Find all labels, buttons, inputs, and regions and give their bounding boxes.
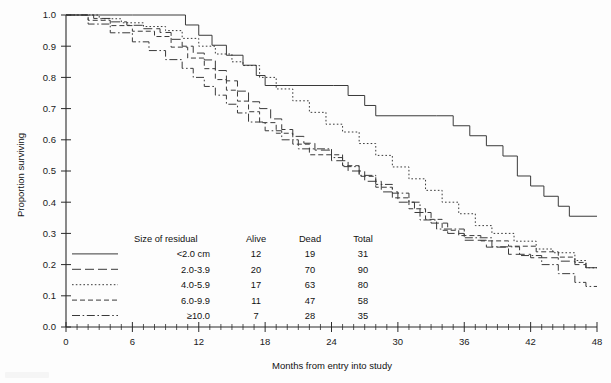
legend-alive-4: 7 bbox=[253, 311, 258, 321]
x-tick-label: 36 bbox=[459, 336, 470, 347]
legend-alive-3: 11 bbox=[251, 296, 261, 306]
legend-header-dead: Dead bbox=[299, 234, 321, 244]
y-tick-label: 0.5 bbox=[43, 165, 56, 176]
x-tick-label: 6 bbox=[130, 336, 135, 347]
y-tick-label: 0.2 bbox=[43, 259, 56, 270]
x-tick-label: 30 bbox=[393, 336, 404, 347]
x-tick-label: 18 bbox=[260, 336, 271, 347]
legend-dead-0: 19 bbox=[305, 249, 315, 259]
x-axis-title: Months from entry into study bbox=[272, 360, 392, 371]
y-tick-label: 0.7 bbox=[43, 103, 56, 114]
legend-dead-1: 70 bbox=[305, 265, 315, 275]
legend-row-label-0: <2.0 cm bbox=[177, 249, 211, 259]
x-tick-label: 0 bbox=[63, 336, 68, 347]
legend-alive-2: 17 bbox=[251, 280, 261, 290]
survival-curve-figure: 0.00.10.20.30.40.50.60.70.80.91.0 061218… bbox=[0, 0, 611, 383]
legend-header-total: Total bbox=[353, 234, 373, 244]
x-tick-label: 12 bbox=[193, 336, 204, 347]
y-tick-label: 0.3 bbox=[43, 228, 56, 239]
x-tick-label: 42 bbox=[525, 336, 536, 347]
y-tick-label: 0.4 bbox=[43, 197, 56, 208]
legend-dead-3: 47 bbox=[305, 296, 315, 306]
legend-row-label-2: 4.0-5.9 bbox=[181, 280, 210, 290]
legend-dead-2: 63 bbox=[305, 280, 315, 290]
y-tick-label: 1.0 bbox=[43, 9, 56, 20]
legend-total-0: 31 bbox=[358, 249, 368, 259]
legend-dead-4: 28 bbox=[305, 311, 315, 321]
x-tick-label: 48 bbox=[592, 336, 603, 347]
legend-header-size: Size of residual bbox=[134, 234, 198, 244]
legend-row-label-1: 2.0-3.9 bbox=[181, 265, 210, 275]
legend-row-label-3: 6.0-9.9 bbox=[181, 296, 210, 306]
y-axis-title: Proportion surviving bbox=[15, 133, 26, 217]
kaplan-meier-chart: 0.00.10.20.30.40.50.60.70.80.91.0 061218… bbox=[0, 0, 611, 383]
legend-total-4: 35 bbox=[358, 311, 368, 321]
y-tick-label: 0.8 bbox=[43, 72, 56, 83]
y-tick-label: 0.0 bbox=[43, 321, 56, 332]
legend-total-1: 90 bbox=[358, 265, 368, 275]
legend-total-2: 80 bbox=[358, 280, 368, 290]
x-tick-label: 24 bbox=[326, 336, 337, 347]
y-tick-label: 0.1 bbox=[43, 290, 56, 301]
legend-alive-1: 20 bbox=[251, 265, 261, 275]
legend-row-label-4: ≥10.0 bbox=[187, 311, 210, 321]
y-tick-label: 0.9 bbox=[43, 41, 56, 52]
legend-alive-0: 12 bbox=[251, 249, 261, 259]
y-tick-label: 0.6 bbox=[43, 134, 56, 145]
page-artifact bbox=[5, 372, 49, 378]
legend-total-3: 58 bbox=[358, 296, 368, 306]
legend-header-alive: Alive bbox=[246, 234, 266, 244]
